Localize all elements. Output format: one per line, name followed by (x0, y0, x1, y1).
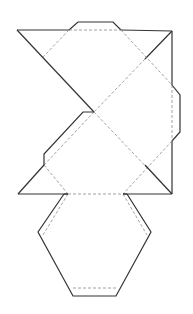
top-edge-right (121, 30, 172, 31)
net-diagram (0, 0, 193, 314)
fold-diagonal-1a (43, 30, 69, 57)
top-glue-tab (69, 22, 121, 30)
fold-diagonal-3 (44, 112, 94, 165)
lower-left-slant (18, 165, 44, 194)
lower-right-slant (145, 165, 172, 194)
upper-right-diagonal-fold (94, 59, 145, 112)
upper-left-diagonal (17, 30, 94, 112)
fold-diagonal-5 (44, 165, 68, 194)
upper-right-diagonal (145, 31, 172, 59)
hexagon-right-tab-fold (123, 194, 147, 235)
right-glue-tab (172, 85, 180, 141)
hexagon-left-tab-fold (43, 194, 68, 235)
hexagon-outline (38, 194, 151, 296)
